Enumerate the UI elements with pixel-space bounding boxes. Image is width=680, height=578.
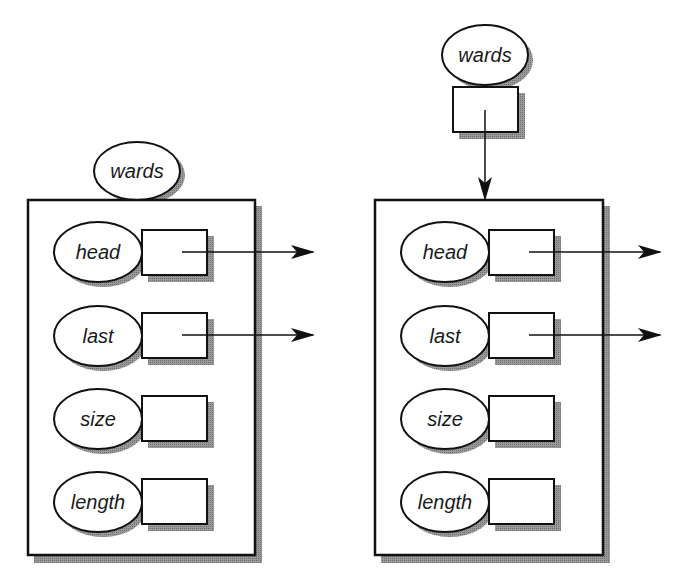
left-struct: wards head last size — [28, 142, 313, 563]
right-head-label: head — [423, 241, 468, 263]
right-length-label: length — [418, 491, 473, 513]
left-size-label: size — [80, 408, 116, 430]
left-head-label: head — [76, 241, 121, 263]
right-wards-label: wards — [458, 44, 511, 66]
right-last-label: last — [429, 325, 462, 347]
diagram-canvas: wards head last size — [0, 0, 680, 578]
left-length-label: length — [71, 491, 126, 513]
left-wards-node: wards — [94, 142, 185, 204]
left-last-label: last — [82, 325, 115, 347]
right-wards-pointer-box — [453, 87, 525, 139]
right-size-label: size — [427, 408, 463, 430]
left-wards-label: wards — [110, 160, 163, 182]
right-struct: wards head last — [375, 25, 660, 563]
right-wards-node: wards — [442, 25, 533, 90]
